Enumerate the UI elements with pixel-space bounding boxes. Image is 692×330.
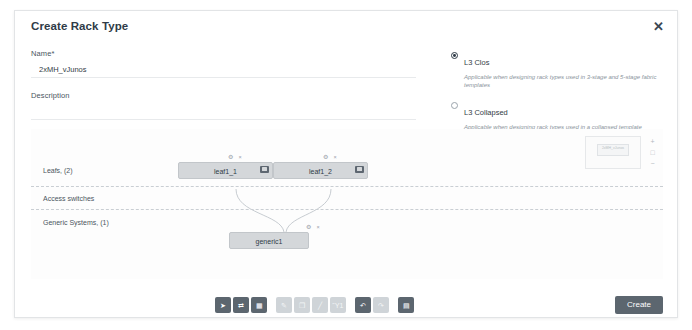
node-tools-leaf1-2[interactable]: ⚙ × — [323, 154, 339, 160]
delete-tool-button[interactable]: Ὕ1 — [330, 297, 346, 313]
selection-group: ➤ ⇄ ▦ — [215, 297, 267, 313]
divider-access — [31, 209, 663, 210]
grid-icon: ▦ — [256, 302, 263, 309]
node-tools-generic1[interactable]: ⚙ × — [306, 224, 322, 230]
copy-icon: ❐ — [299, 302, 305, 309]
edit-group: ✎ ❐ ╱ Ὕ1 — [276, 297, 346, 313]
link-lines — [31, 129, 663, 279]
pencil-icon: ✎ — [281, 302, 287, 309]
node-leaf1-2[interactable]: leaf1_2 — [273, 162, 368, 179]
link-tool-button[interactable]: ⇄ — [233, 297, 249, 313]
divider-leafs — [31, 186, 663, 187]
radio-label: L3 Clos — [464, 58, 489, 67]
node-generic1[interactable]: generic1 — [229, 232, 309, 249]
redo-button[interactable]: ↷ — [373, 297, 389, 313]
history-group: ↶ ↷ — [355, 297, 389, 313]
node-label: leaf1_1 — [214, 168, 237, 175]
dialog-header: Create Rack Type ✕ — [15, 11, 677, 45]
canvas-toolbar: ➤ ⇄ ▦ ✎ ❐ ╱ Ὕ1 ↶ ↷ ▤ — [215, 297, 414, 313]
row-label-leafs: Leafs, (2) — [43, 167, 73, 174]
zoom-controls: + □ − — [647, 136, 658, 169]
pointer-tool-button[interactable]: ➤ — [215, 297, 231, 313]
description-label: Description — [31, 91, 431, 100]
edit-tool-button[interactable]: ✎ — [276, 297, 292, 313]
minimap-viewport: 2xMH_vJunos — [597, 144, 629, 156]
pen-icon: ╱ — [318, 302, 322, 309]
required-mark: * — [51, 49, 54, 58]
save-group: ▤ — [398, 297, 414, 313]
node-leaf1-1[interactable]: leaf1_1 — [178, 162, 273, 179]
node-tools-leaf1-1[interactable]: ⚙ × — [228, 154, 244, 160]
radio-option-l3-collapsed[interactable]: L3 Collapsed — [451, 101, 667, 119]
node-label: leaf1_2 — [309, 168, 332, 175]
form-column: Name* Description — [31, 49, 431, 120]
name-label-text: Name — [31, 49, 51, 58]
pen-tool-button[interactable]: ╱ — [312, 297, 328, 313]
trash-icon: Ὕ1 — [333, 302, 344, 309]
grid-tool-button[interactable]: ▦ — [251, 297, 267, 313]
save-button[interactable]: ▤ — [398, 297, 414, 313]
radio-icon-unselected[interactable] — [451, 102, 458, 109]
screen: Create Rack Type ✕ Name* Description L3 … — [0, 0, 692, 330]
zoom-in-button[interactable]: + — [647, 136, 658, 147]
radio-icon-selected[interactable] — [451, 52, 458, 59]
minimap[interactable]: 2xMH_vJunos — [585, 136, 641, 169]
link-icon: ⇄ — [238, 302, 244, 309]
row-label-generic-systems: Generic Systems, (1) — [43, 219, 109, 226]
create-rack-type-dialog: Create Rack Type ✕ Name* Description L3 … — [14, 10, 678, 318]
undo-button[interactable]: ↶ — [355, 297, 371, 313]
zoom-out-button[interactable]: − — [647, 158, 658, 169]
radio-label: L3 Collapsed — [464, 108, 508, 117]
undo-icon: ↶ — [360, 302, 366, 309]
row-label-access-switches: Access switches — [43, 195, 94, 202]
node-label: generic1 — [256, 238, 283, 245]
rack-topology-canvas[interactable]: Leafs, (2) Access switches Generic Syste… — [31, 129, 663, 279]
zoom-reset-button[interactable]: □ — [647, 147, 658, 158]
name-label: Name* — [31, 49, 431, 58]
radio-option-l3-clos[interactable]: L3 Clos — [451, 51, 667, 69]
switch-icon — [355, 166, 364, 173]
copy-tool-button[interactable]: ❐ — [294, 297, 310, 313]
close-icon[interactable]: ✕ — [651, 20, 665, 34]
pointer-icon: ➤ — [220, 302, 226, 309]
radio-description: Applicable when designing rack types use… — [451, 73, 667, 89]
name-input[interactable] — [31, 63, 416, 78]
switch-icon — [260, 166, 269, 173]
redo-icon: ↷ — [378, 302, 384, 309]
page-title: Create Rack Type — [31, 20, 128, 32]
save-icon: ▤ — [403, 302, 410, 309]
description-input[interactable] — [31, 105, 416, 120]
create-button[interactable]: Create — [615, 296, 663, 314]
